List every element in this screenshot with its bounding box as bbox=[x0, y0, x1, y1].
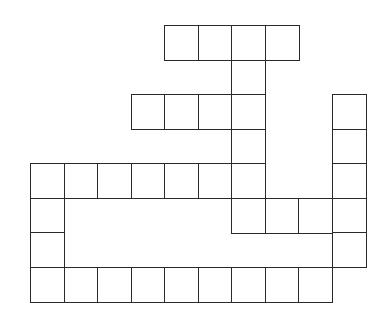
grid-cell[interactable] bbox=[30, 198, 65, 234]
grid-cell[interactable] bbox=[332, 163, 367, 199]
grid-cell[interactable] bbox=[231, 60, 266, 96]
grid-cell[interactable] bbox=[64, 163, 99, 199]
grid-cell[interactable] bbox=[164, 94, 199, 130]
grid-cell[interactable] bbox=[131, 163, 166, 199]
grid-cell[interactable] bbox=[332, 232, 367, 268]
grid-cell[interactable] bbox=[198, 25, 233, 61]
grid-cell[interactable] bbox=[198, 163, 233, 199]
grid-cell[interactable] bbox=[231, 267, 266, 303]
grid-cell[interactable] bbox=[30, 232, 65, 268]
grid-cell[interactable] bbox=[97, 163, 132, 199]
grid-cell[interactable] bbox=[131, 267, 166, 303]
grid-cell[interactable] bbox=[198, 267, 233, 303]
grid-cell[interactable] bbox=[231, 94, 266, 130]
grid-cell[interactable] bbox=[332, 129, 367, 165]
grid-cell[interactable] bbox=[164, 163, 199, 199]
grid-cell[interactable] bbox=[30, 163, 65, 199]
grid-cell[interactable] bbox=[131, 94, 166, 130]
grid-cell[interactable] bbox=[64, 267, 99, 303]
grid-cell[interactable] bbox=[198, 94, 233, 130]
grid-cell[interactable] bbox=[332, 94, 367, 130]
crossword-grid bbox=[0, 0, 388, 332]
grid-cell[interactable] bbox=[332, 198, 367, 234]
grid-cell[interactable] bbox=[231, 198, 266, 234]
grid-cell[interactable] bbox=[164, 267, 199, 303]
grid-cell[interactable] bbox=[265, 267, 300, 303]
grid-cell[interactable] bbox=[298, 198, 333, 234]
grid-cell[interactable] bbox=[231, 25, 266, 61]
grid-cell[interactable] bbox=[231, 163, 266, 199]
grid-cell[interactable] bbox=[164, 25, 199, 61]
grid-cell[interactable] bbox=[265, 198, 300, 234]
grid-cell[interactable] bbox=[298, 267, 333, 303]
grid-cell[interactable] bbox=[30, 267, 65, 303]
grid-cell[interactable] bbox=[265, 25, 300, 61]
grid-cell[interactable] bbox=[97, 267, 132, 303]
grid-cell[interactable] bbox=[231, 129, 266, 165]
